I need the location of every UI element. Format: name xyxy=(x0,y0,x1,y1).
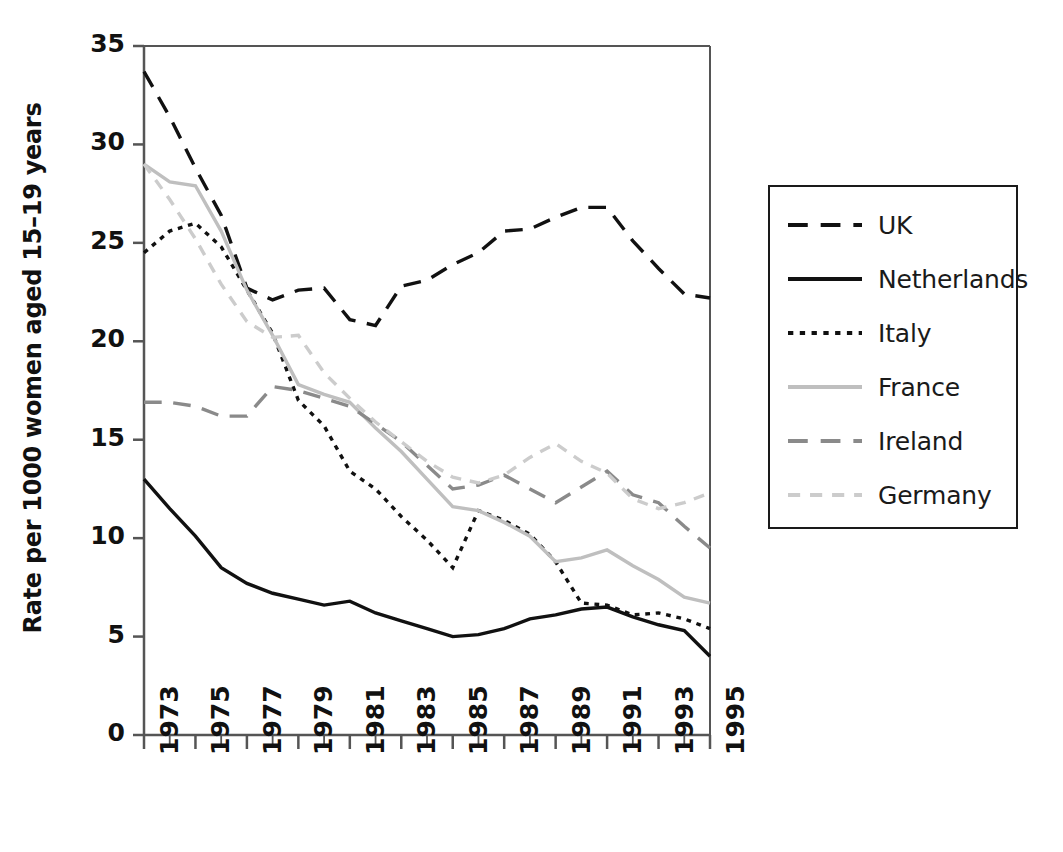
x-axis-tick-label: 1977 xyxy=(258,685,287,755)
chart-page: Rate per 1000 women aged 15–19 years 051… xyxy=(0,0,1063,852)
legend-item-label: Netherlands xyxy=(878,265,1028,294)
y-axis-tick-label: 35 xyxy=(65,29,125,58)
x-axis-tick-label: 1983 xyxy=(412,685,441,755)
x-axis-tick-label: 1989 xyxy=(567,685,596,755)
chart-legend: UKNetherlandsItalyFranceIrelandGermany xyxy=(768,185,1018,529)
series-line-france xyxy=(144,164,710,603)
legend-item-label: Germany xyxy=(878,481,992,510)
legend-item-france[interactable]: France xyxy=(786,367,1006,407)
series-line-uk xyxy=(144,72,710,326)
y-axis-tick-label: 5 xyxy=(65,620,125,649)
legend-item-ireland[interactable]: Ireland xyxy=(786,421,1006,461)
x-axis-tick-label: 1985 xyxy=(464,685,493,755)
x-axis-tick-label: 1973 xyxy=(155,685,184,755)
x-axis-tick-label: 1993 xyxy=(670,685,699,755)
series-line-ireland xyxy=(144,387,710,548)
x-axis-tick-label: 1979 xyxy=(309,685,338,755)
legend-item-label: Ireland xyxy=(878,427,963,456)
legend-line-swatch-icon xyxy=(786,268,864,290)
series-group xyxy=(144,72,710,657)
line-chart-figure: Rate per 1000 women aged 15–19 years 051… xyxy=(0,0,760,852)
series-line-italy xyxy=(144,223,710,629)
legend-item-uk[interactable]: UK xyxy=(786,205,1006,245)
y-axis-tick-label: 20 xyxy=(65,324,125,353)
legend-item-italy[interactable]: Italy xyxy=(786,313,1006,353)
series-line-germany xyxy=(144,164,710,509)
y-axis-tick-label: 30 xyxy=(65,127,125,156)
y-axis-tick-label: 0 xyxy=(65,718,125,747)
legend-item-label: France xyxy=(878,373,960,402)
x-axis-tick-label: 1995 xyxy=(721,685,750,755)
y-axis-tick-label: 15 xyxy=(65,423,125,452)
legend-line-swatch-icon xyxy=(786,214,864,236)
legend-line-swatch-icon xyxy=(786,376,864,398)
legend-line-swatch-icon xyxy=(786,430,864,452)
legend-line-swatch-icon xyxy=(786,322,864,344)
axis-group xyxy=(133,46,710,749)
legend-item-netherlands[interactable]: Netherlands xyxy=(786,259,1006,299)
x-axis-tick-label: 1991 xyxy=(618,685,647,755)
legend-line-swatch-icon xyxy=(786,484,864,506)
y-axis-title: Rate per 1000 women aged 15–19 years xyxy=(10,0,56,735)
legend-item-germany[interactable]: Germany xyxy=(786,475,1006,515)
y-axis-tick-label: 25 xyxy=(65,226,125,255)
y-axis-tick-label: 10 xyxy=(65,521,125,550)
legend-item-label: Italy xyxy=(878,319,931,348)
x-axis-tick-label: 1981 xyxy=(361,685,390,755)
legend-item-label: UK xyxy=(878,211,912,240)
x-axis-tick-label: 1975 xyxy=(206,685,235,755)
x-axis-tick-label: 1987 xyxy=(515,685,544,755)
series-line-netherlands xyxy=(144,479,710,656)
y-axis-title-text: Rate per 1000 women aged 15–19 years xyxy=(19,102,47,633)
